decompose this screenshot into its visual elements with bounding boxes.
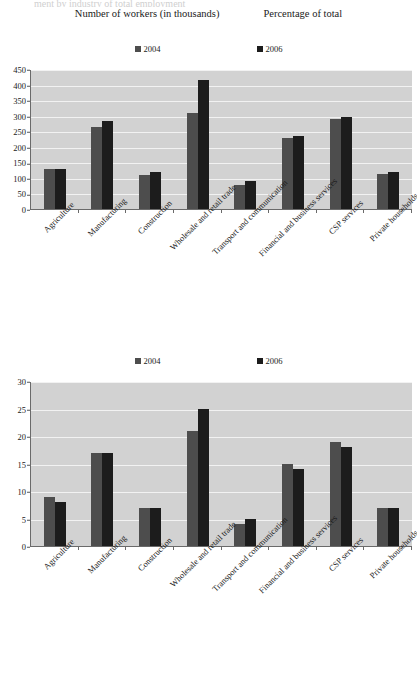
x-axis-tick	[268, 546, 269, 550]
x-axis-tick	[78, 546, 79, 550]
y-axis-tick-label: 200	[13, 144, 26, 153]
y-axis-tick-label: 25	[18, 405, 27, 414]
bar-group	[31, 70, 79, 209]
legend-label-2006: 2006	[266, 356, 283, 366]
y-axis-tick-label: 20	[18, 433, 27, 442]
bar-2004	[187, 431, 198, 547]
y-axis: 051015202530	[0, 382, 30, 547]
y-axis-tick-label: 0	[22, 543, 26, 552]
bar-2004	[139, 508, 150, 547]
bar-2004	[91, 127, 102, 209]
bar-2006	[293, 469, 304, 546]
bar-groups	[31, 382, 412, 546]
bar-2004	[91, 453, 102, 547]
chart-page: ment by industry of total employment Num…	[0, 0, 417, 675]
x-axis-tick	[363, 546, 364, 550]
x-axis-tick	[173, 546, 174, 550]
x-axis-tick	[411, 546, 412, 550]
bar-2004	[44, 169, 55, 209]
bar-2006	[198, 80, 209, 209]
plot-area	[30, 382, 412, 547]
x-axis-labels: AgricultureManufacturingConstructionWhol…	[30, 215, 412, 305]
bar-2006	[102, 121, 113, 209]
cropped-heading-text: ment by industry of total employment	[34, 0, 384, 7]
x-axis-tick	[316, 546, 317, 550]
bar-2006	[341, 117, 352, 209]
bar-group	[31, 382, 79, 546]
x-axis-tick	[125, 546, 126, 550]
bar-group	[364, 70, 412, 209]
y-axis-tick-label: 350	[13, 97, 26, 106]
y-axis-tick-label: 300	[13, 112, 26, 121]
chart-title-left: Number of workers (in thousands)	[75, 8, 220, 19]
bar-group	[174, 382, 222, 546]
legend-swatch-2006	[257, 358, 263, 364]
legend-label-2004: 2004	[144, 356, 161, 366]
y-axis-tick-label: 15	[18, 460, 27, 469]
bar-2006	[102, 453, 113, 547]
bar-2006	[341, 447, 352, 546]
y-axis-tick-label: 30	[18, 378, 27, 387]
legend-swatch-2006	[257, 46, 263, 52]
bar-2004	[377, 174, 388, 209]
y-axis-tick-label: 100	[13, 175, 26, 184]
bar-2004	[282, 464, 293, 547]
bar-2004	[330, 442, 341, 547]
bar-2006	[198, 409, 209, 547]
y-axis-tick-label: 5	[22, 515, 26, 524]
bar-group	[126, 382, 174, 546]
y-axis-tick-label: 150	[13, 159, 26, 168]
legend-chart-1: 2004 2006	[0, 44, 417, 54]
bar-2004	[330, 119, 341, 209]
y-axis-tick-label: 50	[18, 190, 27, 199]
bar-group	[174, 70, 222, 209]
bar-2006	[293, 136, 304, 209]
bar-2004	[282, 138, 293, 209]
legend-chart-2: 2004 2006	[0, 356, 417, 366]
legend-item-2004: 2004	[135, 44, 161, 54]
plot-area-wrapper: 050100150200250300350400450	[0, 70, 417, 210]
bar-2004	[187, 113, 198, 209]
y-axis: 050100150200250300350400450	[0, 70, 30, 210]
bar-2004	[44, 497, 55, 547]
x-axis-tick	[363, 209, 364, 213]
y-axis-tick-label: 250	[13, 128, 26, 137]
bar-group	[126, 70, 174, 209]
legend-item-2004: 2004	[135, 356, 161, 366]
x-axis-tick	[221, 546, 222, 550]
x-axis-tick	[125, 209, 126, 213]
bar-group	[79, 70, 127, 209]
bar-2004	[377, 508, 388, 547]
plot-area-wrapper: 051015202530	[0, 382, 417, 547]
x-axis-labels: AgricultureManufacturingConstructionWhol…	[30, 552, 412, 672]
x-axis-tick	[316, 209, 317, 213]
x-axis-tick	[78, 209, 79, 213]
x-axis-tick	[173, 209, 174, 213]
bar-2004	[139, 175, 150, 209]
y-axis-tick-label: 450	[13, 66, 26, 75]
x-axis-tick	[268, 209, 269, 213]
legend-label-2004: 2004	[144, 44, 161, 54]
bar-group	[364, 382, 412, 546]
legend-item-2006: 2006	[257, 44, 283, 54]
bar-chart-percentage-of-total: 051015202530AgricultureManufacturingCons…	[0, 382, 417, 667]
y-axis-tick-label: 0	[22, 206, 26, 215]
bar-group	[79, 382, 127, 546]
bar-chart-number-of-workers: 050100150200250300350400450AgricultureMa…	[0, 70, 417, 300]
legend-item-2006: 2006	[257, 356, 283, 366]
chart-title-right: Percentage of total	[263, 8, 342, 19]
x-axis-tick	[221, 209, 222, 213]
y-axis-tick-label: 10	[18, 488, 27, 497]
legend-swatch-2004	[135, 358, 141, 364]
legend-label-2006: 2006	[266, 44, 283, 54]
legend-swatch-2004	[135, 46, 141, 52]
chart-titles-row: Number of workers (in thousands) Percent…	[0, 8, 417, 19]
x-axis-tick	[411, 209, 412, 213]
y-axis-tick-label: 400	[13, 81, 26, 90]
